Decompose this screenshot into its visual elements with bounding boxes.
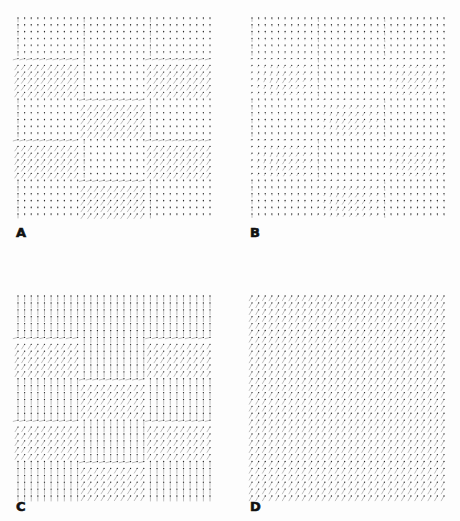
vector-field-d [250, 294, 448, 500]
panel-d-label: D [250, 500, 261, 513]
panel-c-vector-field [16, 294, 214, 500]
panel-c-label: C [16, 500, 26, 513]
vector-field-a [16, 16, 214, 218]
panel-d-vector-field [250, 294, 448, 500]
panel-b-label: B [250, 226, 260, 239]
vector-field-figure: A B C D [0, 0, 460, 521]
vector-field-c [16, 294, 214, 500]
panel-b-vector-field [250, 16, 448, 218]
vector-field-b [250, 16, 448, 218]
panel-a-vector-field [16, 16, 214, 218]
panel-a-label: A [16, 226, 26, 239]
